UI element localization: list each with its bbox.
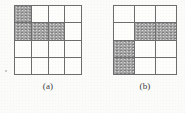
grid-a xyxy=(14,5,82,75)
grid-a-cell-r4-c1 xyxy=(15,58,32,75)
figure-b: (b) xyxy=(113,5,177,75)
figure-a-caption: (a) xyxy=(14,82,82,91)
grid-b-cell-r2-c2-shaded xyxy=(135,23,156,40)
grid-a-cell-r1-c2 xyxy=(32,6,49,23)
grid-a-cell-r4-c2 xyxy=(32,58,49,75)
grid-b-cell-r1-c1 xyxy=(114,6,135,23)
grid-a-cell-r2-c3-shaded xyxy=(49,23,66,40)
grid-a-cell-r1-c1-shaded xyxy=(15,6,32,23)
grid-b-cell-r3-c1-shaded xyxy=(114,41,135,58)
figure-a: (a) xyxy=(14,5,82,75)
grid-a-cell-r3-c4 xyxy=(65,41,82,58)
grid-a-cell-r1-c3 xyxy=(49,6,66,23)
grid-a-cell-r3-c3 xyxy=(49,41,66,58)
grid-a-cell-r2-c1-shaded xyxy=(15,23,32,40)
grid-a-cell-r2-c4 xyxy=(65,23,82,40)
grid-b-cell-r4-c1-shaded xyxy=(114,58,135,75)
grid-a-cell-r1-c4 xyxy=(65,6,82,23)
grid-b-cell-r2-c3-shaded xyxy=(156,23,177,40)
grid-b-cell-r1-c2 xyxy=(135,6,156,23)
figure-b-caption: (b) xyxy=(113,82,177,91)
grid-b xyxy=(113,5,177,75)
grid-a-cell-r4-c3 xyxy=(49,58,66,75)
grid-b-cell-r3-c2 xyxy=(135,41,156,58)
grid-b-cell-r4-c2 xyxy=(135,58,156,75)
scan-speck xyxy=(5,70,7,72)
grid-b-cell-r4-c3 xyxy=(156,58,177,75)
grid-a-cell-r4-c4 xyxy=(65,58,82,75)
grid-b-cell-r1-c3 xyxy=(156,6,177,23)
grid-b-cell-r2-c1 xyxy=(114,23,135,40)
figure-page: (a) (b) xyxy=(0,0,185,113)
grid-a-cell-r2-c2-shaded xyxy=(32,23,49,40)
grid-b-cell-r3-c3 xyxy=(156,41,177,58)
grid-a-cell-r3-c2 xyxy=(32,41,49,58)
grid-a-cell-r3-c1 xyxy=(15,41,32,58)
